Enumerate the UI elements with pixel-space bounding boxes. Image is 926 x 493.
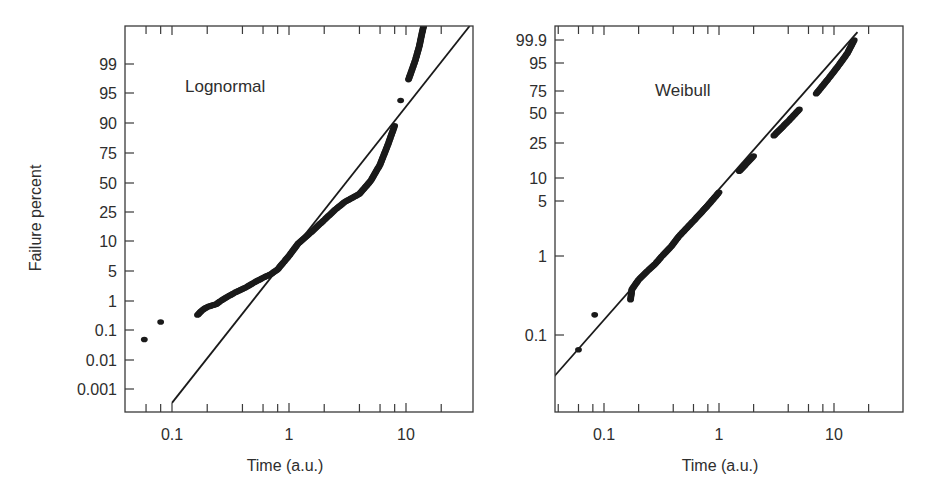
y-tick-label: 75 xyxy=(99,145,117,162)
data-point xyxy=(591,312,598,318)
weibull-x-axis-title: Time (a.u.) xyxy=(682,457,759,474)
y-axis-title: Failure percent xyxy=(27,164,44,271)
lognormal-data-area xyxy=(141,18,470,403)
x-tick-label: 0.1 xyxy=(593,426,615,443)
y-tick-label: 99 xyxy=(99,56,117,73)
x-tick-label: 10 xyxy=(825,426,843,443)
x-tick-label: 10 xyxy=(397,426,415,443)
figure: Failure percent 0.0010.010.1151025507590… xyxy=(0,0,926,493)
y-tick-label: 25 xyxy=(529,135,547,152)
y-tick-label: 5 xyxy=(538,193,547,210)
lognormal-x-axis-title: Time (a.u.) xyxy=(247,457,324,474)
lognormal-plot-frame xyxy=(125,26,473,412)
lognormal-panel-label: Lognormal xyxy=(185,77,265,96)
y-tick-label: 10 xyxy=(99,233,117,250)
x-tick-label: 0.1 xyxy=(161,426,183,443)
weibull-plot-frame xyxy=(555,26,903,412)
x-tick-label: 1 xyxy=(715,426,724,443)
y-tick-label: 0.1 xyxy=(525,327,547,344)
data-point xyxy=(421,18,428,24)
y-tick-label: 95 xyxy=(529,55,547,72)
lognormal-plot: 0.0010.010.11510255075909599 0.1110 Logn… xyxy=(77,18,473,474)
data-point xyxy=(575,347,582,353)
weibull-y-axis: 0.115102550759599.9 xyxy=(516,32,564,344)
y-tick-label: 0.1 xyxy=(95,322,117,339)
y-tick-label: 50 xyxy=(529,105,547,122)
data-point xyxy=(157,319,164,325)
y-tick-label: 75 xyxy=(529,83,547,100)
weibull-plot: 0.115102550759599.9 0.1110 Weibull Time … xyxy=(516,26,903,474)
y-tick-label: 10 xyxy=(529,170,547,187)
y-tick-label: 25 xyxy=(99,204,117,221)
data-point xyxy=(141,337,148,343)
y-tick-label: 50 xyxy=(99,175,117,192)
y-tick-label: 0.01 xyxy=(86,352,117,369)
y-tick-label: 5 xyxy=(108,263,117,280)
y-tick-label: 0.001 xyxy=(77,381,117,398)
data-point xyxy=(397,98,404,104)
y-tick-label: 1 xyxy=(108,293,117,310)
y-tick-label: 1 xyxy=(538,248,547,265)
x-tick-label: 1 xyxy=(285,426,294,443)
data-points xyxy=(141,18,428,343)
y-tick-label: 90 xyxy=(99,115,117,132)
y-tick-label: 99.9 xyxy=(516,32,547,49)
y-tick-label: 95 xyxy=(99,85,117,102)
weibull-panel-label: Weibull xyxy=(655,81,710,100)
